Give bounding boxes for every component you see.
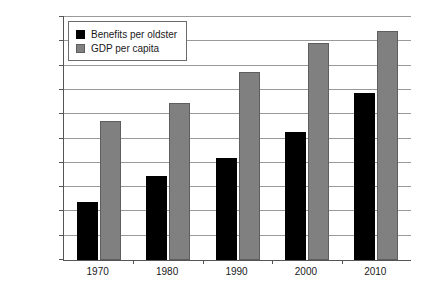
bar [169, 103, 190, 260]
y-tick-mark [59, 162, 64, 163]
x-tick-label: 2010 [345, 266, 405, 277]
bar-chart: $0$5,000$10,000$15,000$20,000$25,000$30,… [0, 0, 430, 288]
y-tick-mark [59, 89, 64, 90]
y-tick-mark [59, 65, 64, 66]
bar [377, 31, 398, 260]
gridline [64, 65, 411, 66]
x-tick-mark [133, 260, 134, 264]
bar [308, 43, 329, 260]
x-tick-label: 1980 [137, 266, 197, 277]
y-tick-mark [59, 210, 64, 211]
y-tick-mark [59, 138, 64, 139]
y-tick-mark [59, 235, 64, 236]
x-tick-label: 1990 [207, 266, 267, 277]
gridline [64, 16, 411, 17]
bar [239, 72, 260, 260]
legend-item: Benefits per oldster [76, 27, 177, 41]
bar [146, 176, 167, 260]
y-tick-mark [59, 186, 64, 187]
x-tick-mark [203, 260, 204, 264]
legend-swatch-icon [76, 44, 85, 53]
y-tick-mark [59, 16, 64, 17]
x-tick-mark [342, 260, 343, 264]
legend-swatch-icon [76, 30, 85, 39]
y-tick-mark [59, 40, 64, 41]
x-tick-label: 2000 [276, 266, 336, 277]
y-tick-mark [59, 259, 64, 260]
x-tick-mark [272, 260, 273, 264]
bar [100, 121, 121, 260]
x-tick-label: 1970 [68, 266, 128, 277]
bar [216, 158, 237, 260]
chart-legend: Benefits per oldster GDP per capita [68, 21, 187, 61]
legend-label: GDP per capita [91, 43, 159, 54]
bar [285, 132, 306, 260]
legend-label: Benefits per oldster [91, 29, 177, 40]
gridline [64, 89, 411, 90]
bar [77, 202, 98, 260]
legend-item: GDP per capita [76, 41, 177, 55]
bar [354, 93, 375, 260]
y-tick-mark [59, 113, 64, 114]
